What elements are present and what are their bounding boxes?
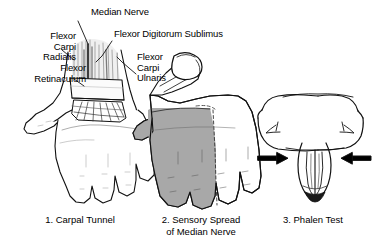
- label-flexor-carpi-ulnaris: Flexor Carpi Ulnaris: [137, 52, 166, 84]
- caption-panel-3: 3. Phalen Test: [258, 214, 368, 226]
- median-sensory-shading: [148, 108, 219, 214]
- arrow-right-inward: [341, 153, 371, 165]
- leader-fcu: [117, 57, 136, 74]
- caption-panel-1: 1. Carpal Tunnel: [10, 214, 150, 226]
- label-flexor-retinaculum: Flexor Retinaculum: [4, 63, 86, 84]
- label-flexor-carpi-radialis: Flexor Carpi Radialis: [14, 31, 76, 63]
- label-flexor-digitorum-sublimus: Flexor Digitorum Sublimus: [114, 29, 223, 40]
- panel-3-phalen-test: [258, 94, 371, 202]
- carpal-tunnel-figure: Median Nerve Flexor Digitorum Sublimus F…: [0, 0, 379, 248]
- caption-panel-2: 2. Sensory Spread of Median Nerve: [140, 214, 262, 237]
- label-median-nerve: Median Nerve: [91, 7, 149, 18]
- arrow-left-inward: [258, 153, 288, 165]
